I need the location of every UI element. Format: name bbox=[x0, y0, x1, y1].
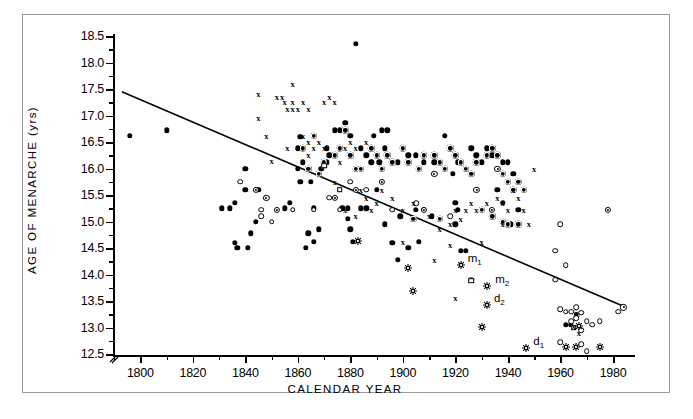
y-tick-label: 17.5 bbox=[81, 82, 104, 96]
x-tick-label: 1960 bbox=[547, 366, 574, 380]
data-point-cross: x bbox=[431, 255, 438, 264]
data-point-square bbox=[337, 187, 343, 193]
y-tick-major bbox=[106, 169, 114, 171]
data-point-cross: x bbox=[410, 198, 417, 207]
y-tick-label: 16.5 bbox=[81, 135, 104, 149]
data-point-star bbox=[561, 338, 570, 347]
x-tick-major bbox=[403, 355, 405, 363]
x-tick-minor bbox=[167, 355, 168, 360]
data-point-cross: x bbox=[363, 193, 370, 202]
x-tick-minor bbox=[587, 355, 588, 360]
data-point-cross: x bbox=[368, 205, 375, 214]
annotation-m1: m1 bbox=[468, 252, 482, 267]
y-tick-label: 17.0 bbox=[81, 109, 104, 123]
data-point-open bbox=[258, 213, 264, 219]
data-point-open bbox=[311, 207, 317, 213]
y-tick-major bbox=[106, 328, 114, 330]
data-point-cross: x bbox=[478, 237, 485, 246]
x-tick-label: 1980 bbox=[600, 366, 627, 380]
y-tick-major bbox=[106, 36, 114, 38]
y-tick-major bbox=[106, 301, 114, 303]
x-axis-line bbox=[113, 355, 635, 357]
x-tick-minor bbox=[534, 355, 535, 360]
data-point-open bbox=[589, 322, 595, 328]
data-point-square bbox=[321, 163, 327, 169]
data-point-star bbox=[482, 277, 491, 286]
x-tick-label: 1840 bbox=[232, 366, 259, 380]
y-tick-major bbox=[106, 248, 114, 250]
y-tick-label: 15.5 bbox=[81, 188, 104, 202]
y-tick-major bbox=[106, 222, 114, 224]
x-tick-label: 1800 bbox=[127, 366, 154, 380]
data-point-cross: x bbox=[331, 177, 338, 186]
data-point-cross: x bbox=[447, 220, 454, 229]
x-tick-minor bbox=[482, 355, 483, 360]
data-point-cross: x bbox=[426, 212, 433, 221]
y-axis-title: AGE OF MENARCHE (yrs) bbox=[26, 106, 38, 274]
x-tick-label: 1900 bbox=[390, 366, 417, 380]
data-point-open bbox=[558, 221, 564, 227]
annotation-m2: m2 bbox=[495, 273, 509, 288]
data-point-open bbox=[584, 349, 590, 355]
data-point-cross: x bbox=[399, 237, 406, 246]
x-tick-label: 1940 bbox=[495, 366, 522, 380]
plot-area: xxxxxxxxxxxxxxxxxxxxxxxxxxxxxxxxxxxxxxxx… bbox=[114, 36, 634, 354]
data-point-cross: x bbox=[520, 205, 527, 214]
x-tick-minor bbox=[429, 355, 430, 360]
x-axis-title: CALENDAR YEAR bbox=[287, 383, 402, 395]
x-tick-major bbox=[298, 355, 300, 363]
data-point-open bbox=[563, 262, 569, 268]
data-point-cross: x bbox=[352, 144, 359, 153]
data-point-open bbox=[597, 318, 603, 324]
data-point-cross: x bbox=[378, 185, 385, 194]
data-point-star bbox=[595, 338, 604, 347]
x-tick-major bbox=[508, 355, 510, 363]
data-point-open bbox=[568, 309, 574, 315]
data-point-cross: x bbox=[336, 158, 343, 167]
y-tick-label: 14.0 bbox=[81, 268, 104, 282]
y-tick-label: 18.5 bbox=[81, 29, 104, 43]
data-point-cross: x bbox=[436, 225, 443, 234]
data-point-star bbox=[477, 318, 486, 327]
data-point-cross: x bbox=[342, 205, 349, 214]
data-point-star bbox=[522, 339, 531, 348]
data-point-cross: x bbox=[525, 220, 532, 229]
data-point-cross: x bbox=[284, 144, 291, 153]
x-tick-major bbox=[350, 355, 352, 363]
x-tick-major bbox=[140, 355, 142, 363]
x-tick-major bbox=[245, 355, 247, 363]
data-point-open bbox=[615, 309, 621, 315]
data-point-cross: x bbox=[294, 105, 301, 114]
data-point-cross: x bbox=[483, 198, 490, 207]
y-tick-major bbox=[106, 63, 114, 65]
data-point-cross: x bbox=[331, 98, 338, 107]
y-tick-major bbox=[106, 89, 114, 91]
data-point-cross: x bbox=[389, 193, 396, 202]
data-point-open bbox=[237, 179, 243, 185]
data-point-cross: x bbox=[499, 220, 506, 229]
x-tick-minor bbox=[377, 355, 378, 360]
data-point-star bbox=[404, 258, 413, 267]
data-point-cross: x bbox=[289, 79, 296, 88]
data-point-open bbox=[258, 207, 264, 213]
regression-trendline bbox=[114, 36, 634, 354]
x-tick-label: 1880 bbox=[337, 366, 364, 380]
data-point-cross: x bbox=[457, 214, 464, 223]
x-tick-label: 1920 bbox=[442, 366, 469, 380]
data-point-cross: x bbox=[305, 151, 312, 160]
data-point-open bbox=[290, 207, 296, 213]
data-point-cross: x bbox=[399, 205, 406, 214]
data-point-cross: x bbox=[352, 212, 359, 221]
data-point-star bbox=[409, 282, 418, 291]
data-point-cross: x bbox=[363, 138, 370, 147]
data-point-star bbox=[456, 255, 465, 264]
x-tick-major bbox=[560, 355, 562, 363]
data-point-open bbox=[579, 310, 585, 316]
data-point-cross: x bbox=[473, 205, 480, 214]
data-point-cross: x bbox=[531, 164, 538, 173]
data-point-cross: x bbox=[268, 156, 275, 165]
x-tick-major bbox=[613, 355, 615, 363]
y-tick-label: 14.5 bbox=[81, 241, 104, 255]
data-point-star bbox=[574, 317, 583, 326]
y-tick-label: 13.0 bbox=[81, 321, 104, 335]
